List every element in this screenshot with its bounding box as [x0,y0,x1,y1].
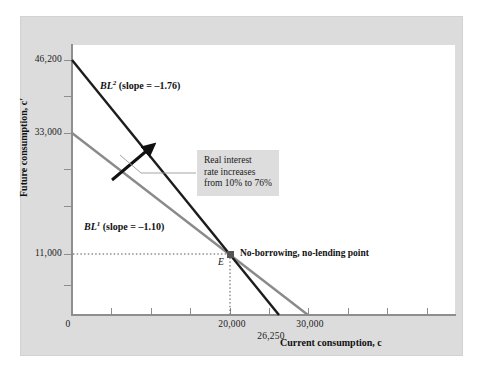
x-axis-title: Current consumption, c [280,337,382,348]
series-label-bl2-rest: (slope = –1.76) [116,80,180,91]
callout-line-3: from 10% to 76% [204,178,272,190]
x-tick-30000 [308,308,309,315]
figure-root: 46,200 33,000 11,000 0 20,000 30,000 26,… [0,0,486,373]
point-marker-e [227,251,234,258]
point-label-e: E [218,257,224,267]
series-label-bl1: BL1 (slope = –1.10) [84,220,164,232]
x-axis-title-text: Current consumption, c [280,337,382,348]
series-label-bl2: BL2 (slope = –1.76) [100,79,180,91]
series-label-bl1-rest: (slope = –1.10) [100,221,164,232]
y-axis-title: Future consumption, c′ [18,63,29,233]
y-tick-labels: 46,200 33,000 11,000 [0,0,62,373]
series-label-bl2-prefix: BL [100,80,113,91]
callout-line-1: Real interest [204,155,272,167]
x-tick-label-30000: 30,000 [296,319,323,329]
x-tick-label-0: 0 [66,319,71,329]
y-axis-line [71,44,73,316]
y-tick-label-11000: 11,000 [35,248,62,258]
x-tick-20000 [230,308,231,315]
callout-line-2: rate increases [204,167,272,179]
x-tick-minor-2 [151,308,152,315]
y-tick-minor-1 [64,96,71,97]
y-tick-label-46200: 46,200 [35,54,62,64]
point-note-e: No-borrowing, no-lending point [240,248,369,258]
y-tick-label-33000: 33,000 [35,127,62,137]
y-tick-minor-3 [64,206,71,207]
x-tick-minor-1 [111,308,112,315]
y-tick-11000 [64,254,71,255]
x-tick-minor-3 [190,308,191,315]
x-tick-minor-6 [387,308,388,315]
y-tick-minor-4 [64,285,71,286]
x-tick-minor-5 [348,308,349,315]
rate-increase-callout: Real interest rate increases from 10% to… [197,150,279,196]
x-tick-label-20000: 20,000 [218,319,245,329]
x-tick-minor-4 [269,308,270,315]
y-axis-title-text: Future consumption, c′ [18,98,29,197]
x-axis-line [71,314,456,316]
y-tick-33000 [64,133,71,134]
x-tick-minor-7 [427,308,428,315]
series-label-bl1-prefix: BL [84,221,97,232]
y-tick-46200 [64,60,71,61]
y-tick-minor-2 [64,169,71,170]
